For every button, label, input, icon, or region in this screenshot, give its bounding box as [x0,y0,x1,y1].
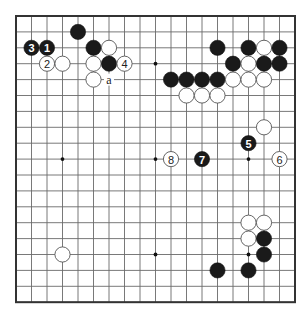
black-stone [272,56,287,71]
black-stone [210,72,225,87]
go-board-diagram: 31245678 a [0,0,307,316]
white-stone [241,72,256,87]
white-stone: 4 [117,56,132,71]
white-stone [225,72,240,87]
black-stone [86,40,101,55]
star-point [154,253,158,257]
star-point [154,62,158,66]
black-stone [101,56,116,71]
go-board: 31245678 a [0,0,307,316]
move-number-label: 6 [276,154,282,166]
black-stone [241,263,256,278]
move-number-label: 4 [121,58,127,70]
white-stone [55,56,70,71]
white-stone [101,40,116,55]
white-stone [241,215,256,230]
white-stone [256,120,271,135]
white-stone [179,88,194,103]
white-stone [256,215,271,230]
move-number-label: 7 [199,154,205,166]
black-stone: 1 [39,40,54,55]
black-stone [70,24,85,39]
star-point [154,157,158,161]
white-stone [241,56,256,71]
black-stone: 7 [194,152,209,167]
white-stone [256,40,271,55]
white-stone [210,88,225,103]
black-stone: 3 [24,40,39,55]
white-stone [86,56,101,71]
black-stone [163,72,178,87]
move-number-label: 1 [44,42,50,54]
star-point [247,157,251,161]
white-stone: 8 [163,152,178,167]
white-stone [55,247,70,262]
black-stone [256,231,271,246]
black-stone [256,247,271,262]
black-stone [210,263,225,278]
move-number-label: 3 [28,42,34,54]
move-number-label: 8 [168,154,174,166]
star-point [61,157,65,161]
white-stone [241,231,256,246]
white-stone [194,88,209,103]
black-stone [272,40,287,55]
white-stone [86,72,101,87]
white-stone: 6 [272,152,287,167]
star-point [247,253,251,257]
black-stone [179,72,194,87]
black-stone [210,40,225,55]
black-stone [194,72,209,87]
move-number-label: 2 [44,58,50,70]
black-stone: 5 [241,136,256,151]
black-stone [225,56,240,71]
black-stone [256,56,271,71]
point-letter-label: a [106,73,112,87]
black-stone [241,40,256,55]
point-labels-layer: a [104,73,114,87]
white-stone: 2 [39,56,54,71]
white-stone [256,72,271,87]
move-number-label: 5 [245,138,251,150]
